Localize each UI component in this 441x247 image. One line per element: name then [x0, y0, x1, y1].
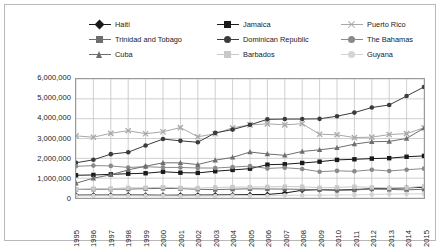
- legend-marker-square-icon: [217, 49, 239, 60]
- x-tick-label: 2003: [212, 230, 221, 247]
- y-tick-label: 5,000,000: [13, 93, 71, 103]
- plot-area: [75, 78, 425, 199]
- y-tick-label: 4,000,000: [13, 113, 71, 123]
- legend-label: Jamaica: [243, 17, 271, 32]
- x-tick-label: 2012: [369, 230, 378, 247]
- y-tick-label: 6,000,000: [13, 73, 71, 83]
- legend-marker-x-icon: [341, 19, 363, 30]
- chart-legend: HaitiJamaicaPuerto RicoTrinidad and Toba…: [65, 17, 425, 63]
- y-tick-label: 0: [13, 194, 71, 204]
- x-tick-label: 1999: [142, 230, 151, 247]
- chart-svg: [76, 79, 424, 198]
- gridlines: [76, 79, 424, 198]
- legend-label: Guyana: [367, 47, 393, 62]
- x-tick-label: 2006: [264, 230, 273, 247]
- legend-label: Barbados: [243, 47, 275, 62]
- x-tick-label: 2014: [404, 230, 413, 247]
- legend-marker-diamond-icon: [89, 19, 111, 30]
- x-tick-label: 1995: [72, 230, 81, 247]
- legend-item-dominican-republic[interactable]: Dominican Republic: [203, 32, 331, 47]
- legend-item-the-bahamas[interactable]: The Bahamas: [331, 32, 425, 47]
- legend-row: HaitiJamaicaPuerto Rico: [65, 17, 425, 32]
- x-tick-label: 2005: [247, 230, 256, 247]
- legend-item-cuba[interactable]: Cuba: [65, 47, 203, 62]
- x-tick-label: 2009: [317, 230, 326, 247]
- legend-item-trinidad-and-tobago[interactable]: Trinidad and Tobago: [65, 32, 203, 47]
- legend-label: Puerto Rico: [367, 17, 406, 32]
- x-tick-label: 1997: [107, 230, 116, 247]
- legend-label: Cuba: [115, 47, 133, 62]
- legend-marker-circle-icon: [341, 34, 363, 45]
- chart-container: HaitiJamaicaPuerto RicoTrinidad and Toba…: [4, 4, 436, 241]
- x-tick-label: 2008: [299, 230, 308, 247]
- legend-label: Haiti: [115, 17, 130, 32]
- legend-marker-square-icon: [89, 34, 111, 45]
- x-tick-label: 1996: [89, 230, 98, 247]
- legend-item-guyana[interactable]: Guyana: [331, 47, 425, 62]
- legend-marker-triangle-icon: [89, 49, 111, 60]
- legend-marker-circle-icon: [217, 34, 239, 45]
- y-axis-tick-labels: 6,000,0005,000,0004,000,0003,000,0002,00…: [13, 73, 71, 205]
- x-tick-label: 2007: [282, 230, 291, 247]
- legend-marker-circle-icon: [341, 49, 363, 60]
- x-tick-label: 2013: [387, 230, 396, 247]
- x-tick-label: 2015: [422, 230, 431, 247]
- legend-label: Dominican Republic: [243, 32, 309, 47]
- legend-label: The Bahamas: [367, 32, 413, 47]
- legend-row: CubaBarbadosGuyana: [65, 47, 425, 62]
- y-tick-label: 1,000,000: [13, 174, 71, 184]
- x-tick-label: 2001: [177, 230, 186, 247]
- legend-item-haiti[interactable]: Haiti: [65, 17, 203, 32]
- y-tick-label: 2,000,000: [13, 154, 71, 164]
- legend-item-jamaica[interactable]: Jamaica: [203, 17, 331, 32]
- x-axis-tick-labels: 1995199619971998199920002001200220032004…: [75, 201, 425, 247]
- legend-marker-square-icon: [217, 19, 239, 30]
- y-tick-label: 3,000,000: [13, 134, 71, 144]
- x-tick-label: 2011: [352, 231, 361, 247]
- x-tick-label: 2002: [194, 230, 203, 247]
- legend-label: Trinidad and Tobago: [115, 32, 182, 47]
- legend-item-barbados[interactable]: Barbados: [203, 47, 331, 62]
- x-tick-label: 2004: [229, 230, 238, 247]
- x-tick-label: 1998: [124, 230, 133, 247]
- x-tick-label: 2010: [334, 230, 343, 247]
- legend-item-puerto-rico[interactable]: Puerto Rico: [331, 17, 425, 32]
- x-tick-label: 2000: [159, 230, 168, 247]
- legend-row: Trinidad and TobagoDominican RepublicThe…: [65, 32, 425, 47]
